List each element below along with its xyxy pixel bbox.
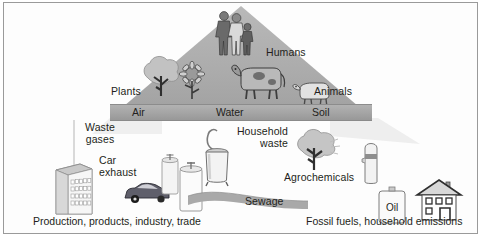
band-label-water: Water [216,106,244,118]
factory-building-icon [50,160,96,216]
label-sewage: Sewage [245,196,284,208]
spray-canister-icon [361,138,381,186]
label-car-exhaust: Car exhaust [99,155,136,178]
label-animals: Animals [314,86,352,98]
compartment-band: Air Water Soil [110,104,372,121]
cow-icon [229,62,285,100]
band-label-air: Air [132,106,145,118]
pedal-bin-icon [200,126,234,188]
band-label-soil: Soil [312,106,330,118]
figure-root: Humans Plants [0,0,483,251]
oil-can-text: Oil [386,202,398,213]
label-waste-gases: Waste gases [76,122,124,145]
family-icon [212,9,260,59]
label-agrochemicals: Agrochemicals [284,172,354,184]
label-household-waste: Household waste [228,126,288,149]
sunflower-icon [176,62,210,100]
label-humans: Humans [266,47,306,59]
label-plants: Plants [111,86,141,98]
caption-left: Production, products, industry, trade [33,215,201,227]
caption-right: Fossil fuels, household emissions [306,215,462,227]
sprayed-tree-icon [292,126,344,174]
